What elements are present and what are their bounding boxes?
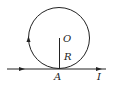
label-current-i: I bbox=[96, 71, 102, 82]
label-center-o: O bbox=[63, 33, 71, 44]
wire-arrow-left-icon bbox=[19, 67, 25, 71]
current-loop-diagram: O R A I bbox=[0, 0, 115, 93]
label-radius-r: R bbox=[63, 51, 72, 62]
loop-arrow-icon bbox=[27, 36, 31, 42]
label-point-a: A bbox=[53, 71, 61, 82]
